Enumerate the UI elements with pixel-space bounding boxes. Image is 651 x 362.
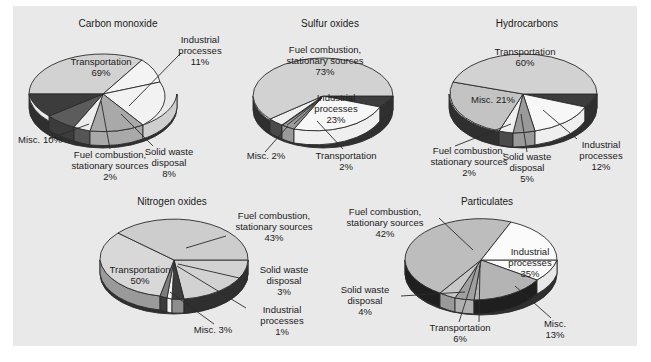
- label-line: processes: [178, 45, 221, 56]
- label-fuel-combustion-pt: Fuel combustion, stationary sources 42%: [327, 206, 443, 239]
- label-line: stationary sources: [346, 217, 423, 228]
- pie-chart-sulfur-oxides: Sulfur oxides: [225, 6, 430, 186]
- label-solid-waste-co: Solid waste disposal 8%: [137, 146, 201, 179]
- label-solid-waste-hc: Solid waste disposal 5%: [495, 151, 559, 184]
- label-line: 2%: [103, 171, 117, 182]
- label-line: Industrial: [263, 304, 302, 315]
- pie-chart-nitrogen-oxides: Nitrogen oxides: [98, 188, 348, 348]
- chart-title-particulates: Particulates: [439, 196, 535, 207]
- label-line: 42%: [375, 228, 394, 239]
- label-industrial-processes-so: Industrial processes 23%: [301, 92, 371, 125]
- label-line: 50%: [130, 275, 149, 286]
- label-line: processes: [260, 315, 303, 326]
- chart-title-sulfur-oxides: Sulfur oxides: [275, 18, 385, 29]
- pie-chart-hydrocarbons: Hydrocarbons: [425, 6, 637, 186]
- chart-title-nitrogen-oxides: Nitrogen oxides: [116, 196, 228, 207]
- label-line: Industrial: [582, 139, 621, 150]
- label-line: Fuel combustion,: [74, 149, 146, 160]
- label-line: 3%: [277, 286, 291, 297]
- label-line: 12%: [591, 161, 610, 172]
- label-misc-hc: Misc. 21%: [460, 94, 526, 105]
- label-line: 23%: [326, 114, 345, 125]
- label-line: 60%: [515, 57, 534, 68]
- label-line: 6%: [453, 333, 467, 344]
- label-line: Transportation: [430, 322, 491, 333]
- label-solid-waste-pt: Solid waste disposal 4%: [331, 284, 399, 317]
- label-misc-no: Misc. 3%: [182, 324, 244, 335]
- label-industrial-processes-no: Industrial processes 1%: [250, 304, 314, 337]
- label-line: 11%: [191, 56, 209, 67]
- label-transportation-no: Transportation 50%: [90, 264, 190, 286]
- label-line: stationary sources: [286, 55, 363, 66]
- label-line: disposal: [152, 157, 187, 168]
- label-line: Transportation: [495, 46, 556, 57]
- label-line: stationary sources: [235, 221, 312, 232]
- label-line: Industrial: [317, 92, 356, 103]
- label-line: 13%: [545, 329, 564, 340]
- label-line: 73%: [315, 66, 334, 77]
- label-line: 2%: [462, 167, 476, 178]
- label-fuel-combustion-no: Fuel combustion, stationary sources 43%: [216, 210, 332, 243]
- label-line: Solid waste: [341, 284, 390, 295]
- label-misc-so: Misc. 2%: [237, 150, 295, 161]
- label-industrial-processes-pt: Industrial processes 35%: [493, 246, 567, 279]
- label-line: 5%: [520, 173, 534, 184]
- label-line: 8%: [162, 168, 176, 179]
- label-line: 35%: [520, 268, 539, 279]
- label-transportation-so: Transportation 2%: [303, 150, 389, 172]
- label-line: disposal: [510, 162, 545, 173]
- label-line: processes: [314, 103, 357, 114]
- label-line: 4%: [358, 306, 372, 317]
- label-line: Fuel combustion,: [289, 44, 361, 55]
- label-line: Solid waste: [260, 264, 309, 275]
- label-line: processes: [508, 257, 551, 268]
- label-fuel-combustion-so: Fuel combustion, stationary sources 73%: [267, 44, 383, 77]
- label-industrial-processes-co: Industrial processes 11%: [171, 34, 229, 67]
- label-solid-waste-no: Solid waste disposal 3%: [250, 264, 318, 297]
- label-line: Transportation: [316, 150, 377, 161]
- label-line: 69%: [91, 67, 110, 78]
- pie-chart-particulates: Particulates: [343, 188, 613, 348]
- label-line: Fuel combustion,: [238, 210, 310, 221]
- label-line: Industrial: [181, 34, 220, 45]
- pie-chart-carbon-monoxide: Carbon monoxide: [13, 6, 223, 186]
- chart-title-hydrocarbons: Hydrocarbons: [473, 18, 581, 29]
- label-line: 2%: [339, 161, 353, 172]
- label-transportation-pt: Transportation 6%: [411, 322, 509, 344]
- label-line: Transportation: [110, 264, 171, 275]
- label-industrial-processes-hc: Industrial processes 12%: [570, 139, 632, 172]
- figure-panel: Carbon monoxide: [13, 6, 637, 346]
- label-line: Misc.: [544, 318, 566, 329]
- label-line: Industrial: [511, 246, 550, 257]
- label-misc-pt: Misc. 13%: [533, 318, 577, 340]
- label-line: processes: [579, 150, 622, 161]
- chart-title-carbon-monoxide: Carbon monoxide: [58, 18, 178, 29]
- label-transportation-hc: Transportation 60%: [475, 46, 575, 68]
- label-line: disposal: [348, 295, 383, 306]
- label-misc-co: Misc. 10%: [9, 134, 71, 145]
- label-line: Transportation: [71, 56, 132, 67]
- label-line: Solid waste: [145, 146, 194, 157]
- label-line: 43%: [264, 232, 283, 243]
- label-transportation-co: Transportation 69%: [51, 56, 151, 78]
- label-line: Solid waste: [503, 151, 552, 162]
- label-line: disposal: [267, 275, 302, 286]
- label-line: 1%: [275, 326, 289, 337]
- label-line: Fuel combustion,: [349, 206, 421, 217]
